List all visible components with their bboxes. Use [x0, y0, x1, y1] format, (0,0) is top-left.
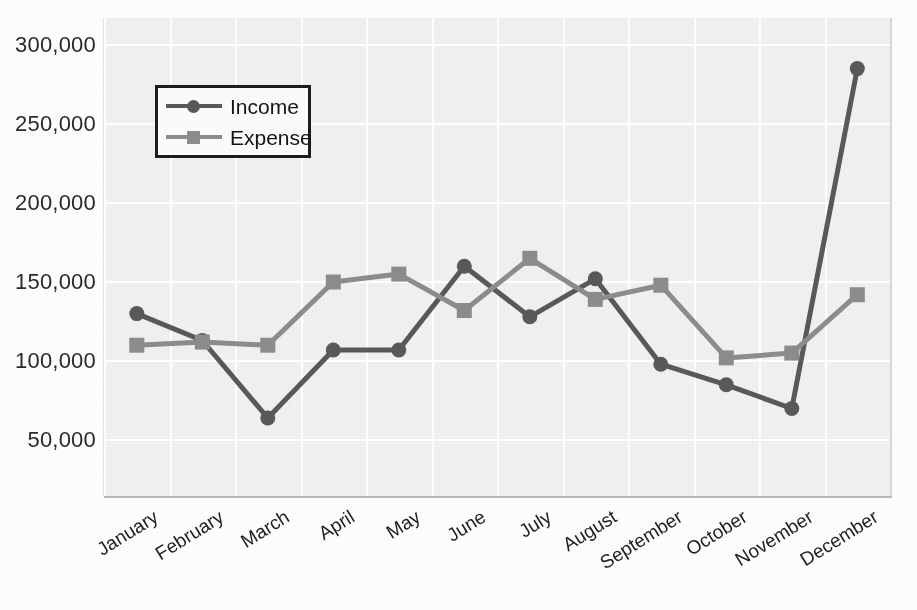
legend-label-expense: Expense: [230, 127, 312, 148]
x-axis-tick-labels: JanuaryFebruaryMarchAprilMayJuneJulyAugu…: [0, 0, 917, 610]
x-axis-tick-label: June: [444, 506, 491, 546]
line-chart: 300,000250,000200,000150,000100,00050,00…: [0, 0, 917, 610]
x-axis-tick-label: July: [515, 506, 555, 543]
legend-swatch-income: [166, 95, 222, 117]
legend-entry-expense[interactable]: Expense: [166, 122, 312, 152]
x-axis-tick-label: April: [315, 506, 359, 545]
legend-marker-square-icon: [187, 131, 200, 144]
x-axis-tick-label: February: [152, 506, 228, 565]
x-axis-tick-label: January: [93, 506, 162, 560]
chart-legend[interactable]: Income Expense: [155, 85, 311, 158]
legend-swatch-expense: [166, 126, 222, 148]
legend-entry-income[interactable]: Income: [166, 91, 299, 121]
legend-marker-circle-icon: [187, 100, 200, 113]
legend-label-income: Income: [230, 96, 299, 117]
x-axis-tick-label: May: [382, 506, 424, 544]
x-axis-tick-label: March: [237, 506, 293, 553]
